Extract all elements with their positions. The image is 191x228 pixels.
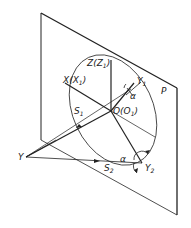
label-y: Y <box>18 152 25 162</box>
label-z: Z(Z1) <box>86 58 110 69</box>
svg-text:Y2: Y2 <box>145 163 155 174</box>
svg-text:X(X1): X(X1) <box>62 75 86 86</box>
label-y2: Y2 <box>145 163 155 174</box>
svg-text:S1: S1 <box>74 106 84 117</box>
projection-diagram: P Z(Z1) X(X1) O(O1) Y1 Y2 Y S1 S2 α α <box>0 0 191 228</box>
plane-label: P <box>161 86 167 96</box>
projection-lines <box>26 89 142 163</box>
s2-arrow-icon <box>94 159 100 163</box>
label-s2: S2 <box>104 163 114 174</box>
rotation-arcs <box>124 84 148 173</box>
svg-text:S2: S2 <box>104 163 114 174</box>
label-alpha-top: α <box>130 91 136 101</box>
label-y1: Y1 <box>137 76 146 87</box>
svg-text:Y1: Y1 <box>137 76 146 87</box>
label-o: O(O1) <box>113 106 138 117</box>
plane-p <box>41 13 177 215</box>
svg-text:O(O1): O(O1) <box>113 106 138 117</box>
svg-text:Z(Z1): Z(Z1) <box>86 58 110 69</box>
label-s1: S1 <box>74 106 84 117</box>
label-x: X(X1) <box>62 75 86 86</box>
label-alpha-bottom: α <box>120 154 126 164</box>
